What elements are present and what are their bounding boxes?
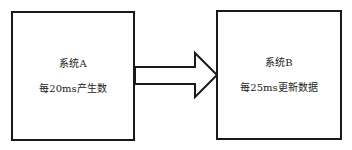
system-b-title: 系统B (218, 57, 340, 69)
system-b-box: 系统B 每25ms更新数据 (216, 10, 342, 140)
system-b-description: 每25ms更新数据 (218, 82, 340, 94)
